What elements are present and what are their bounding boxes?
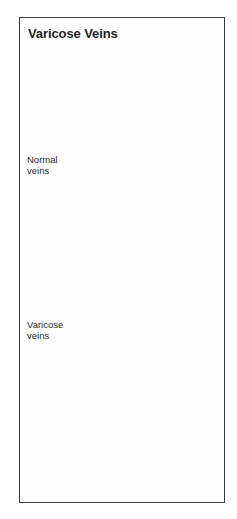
varicose-veins-label-line1: Varicose <box>27 320 63 331</box>
normal-veins-label-line2: veins <box>27 166 58 177</box>
figure-title: Varicose Veins <box>28 26 118 41</box>
normal-veins-label: Normal veins <box>27 155 58 176</box>
varicose-veins-label-line2: veins <box>27 331 63 342</box>
normal-veins-label-line1: Normal <box>27 155 58 166</box>
varicose-veins-label: Varicose veins <box>27 320 63 341</box>
figure-frame: Varicose Veins <box>19 17 225 503</box>
